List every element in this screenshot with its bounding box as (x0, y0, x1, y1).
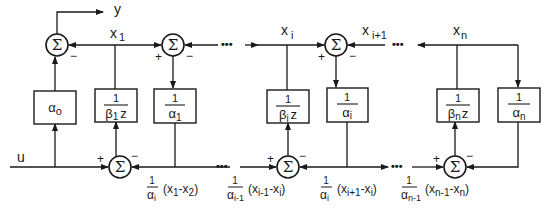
svg-text:(xi-1-xi): (xi-1-xi) (248, 182, 285, 198)
ellipsis: ••• (221, 38, 233, 50)
svg-text:(x1-x2): (x1-x2) (163, 182, 198, 198)
svg-text:1: 1 (323, 175, 329, 186)
sigma-icon: Σ (331, 36, 342, 54)
sigma-icon: Σ (168, 36, 179, 54)
plus-sign: + (318, 50, 325, 64)
svg-text:αi: αi (320, 188, 329, 203)
ellipses: ••• ••• ••• ••• (216, 38, 404, 172)
svg-text:1: 1 (232, 175, 238, 186)
minus-sign: − (466, 149, 473, 163)
plus-sign: + (155, 50, 162, 64)
svg-text:1: 1 (455, 92, 461, 104)
svg-text:xn: xn (453, 22, 467, 41)
sigma-icon: Σ (450, 158, 461, 176)
svg-text:x1: x1 (110, 25, 125, 43)
svg-text:1: 1 (113, 92, 119, 104)
minus-sign: − (299, 149, 306, 163)
label-u: u (17, 149, 25, 165)
svg-text:(xn-1-xn): (xn-1-xn) (425, 182, 469, 198)
svg-text:1: 1 (344, 91, 350, 103)
svg-text:xi: xi (281, 22, 293, 41)
svg-text:1: 1 (149, 175, 155, 186)
svg-text:αi: αi (147, 188, 156, 203)
svg-text:xi+1: xi+1 (362, 22, 387, 41)
ellipsis: ••• (216, 160, 228, 172)
block-diagram: Σ Σ Σ Σ Σ Σ − + − + − + − + − + − ••• ••… (0, 0, 550, 208)
bottom-label-3: 1 αn-1 (xn-1-xn) (401, 175, 469, 203)
sigma-icon: Σ (115, 158, 126, 176)
plus-sign: + (267, 152, 274, 166)
signal-labels: y u x1 xi xi+1 xn (17, 1, 467, 165)
svg-text:αn-1: αn-1 (401, 188, 421, 203)
ellipsis: ••• (392, 38, 404, 50)
label-y: y (114, 1, 121, 17)
sigma-icon: Σ (283, 158, 294, 176)
bottom-label-0: 1 αi (x1-x2) (147, 175, 198, 203)
svg-text:1: 1 (516, 91, 522, 103)
svg-text:αi-1: αi-1 (227, 188, 244, 203)
sigma-icon: Σ (52, 36, 63, 54)
plus-sign: + (433, 152, 440, 166)
minus-sign: − (131, 149, 138, 163)
plus-sign: + (97, 152, 104, 166)
bottom-label-1: 1 αi-1 (xi-1-xi) (227, 175, 285, 203)
ellipsis: ••• (391, 160, 403, 172)
minus-sign: − (70, 49, 77, 63)
svg-text:1: 1 (406, 175, 412, 186)
alphan-to-bsumn (467, 122, 518, 167)
bottom-labels: 1 αi (x1-x2) 1 αi-1 (xi-1-xi) 1 αi (xi+1… (147, 175, 469, 203)
svg-text:1: 1 (285, 93, 291, 105)
output-arrow (57, 12, 103, 34)
minus-sign: − (186, 49, 193, 63)
bottom-label-2: 1 αi (xi+1-xi) (320, 175, 377, 203)
minus-sign: − (349, 49, 356, 63)
diagram-svg: Σ Σ Σ Σ Σ Σ − + − + − + − + − + − ••• ••… (0, 0, 550, 208)
svg-text:1: 1 (172, 92, 178, 104)
svg-text:(xi+1-xi): (xi+1-xi) (337, 182, 377, 198)
